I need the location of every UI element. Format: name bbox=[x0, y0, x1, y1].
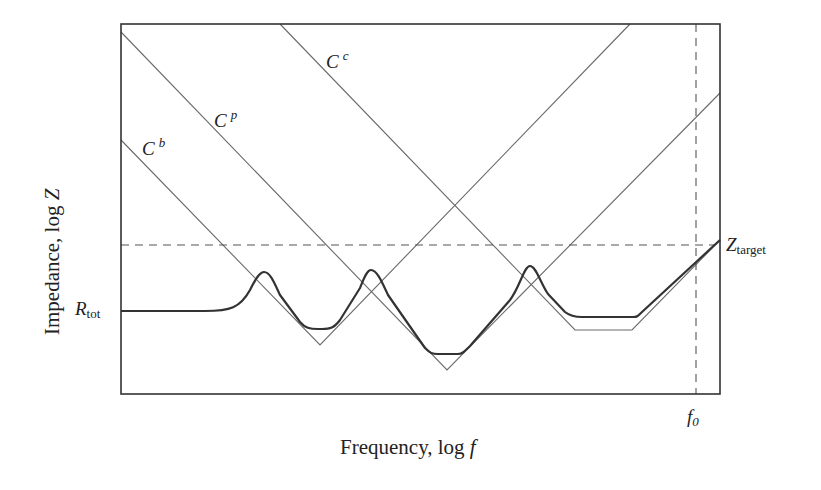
total-impedance-curve bbox=[121, 240, 720, 354]
cp-label: Cp bbox=[214, 107, 237, 132]
r-tot-label: Rtot bbox=[75, 298, 100, 322]
cb-asymptote bbox=[121, 24, 630, 345]
cb-label: Cb bbox=[142, 135, 165, 160]
plot-frame bbox=[121, 24, 720, 394]
cc-label: Cc bbox=[326, 48, 348, 73]
z-target-label: Ztarget bbox=[726, 234, 766, 258]
x-axis-label: Frequency, log f bbox=[340, 435, 476, 460]
cp-asymptote bbox=[121, 32, 720, 370]
f0-label: f0 bbox=[687, 406, 699, 430]
y-axis-label: Impedance, log Z bbox=[40, 189, 65, 335]
